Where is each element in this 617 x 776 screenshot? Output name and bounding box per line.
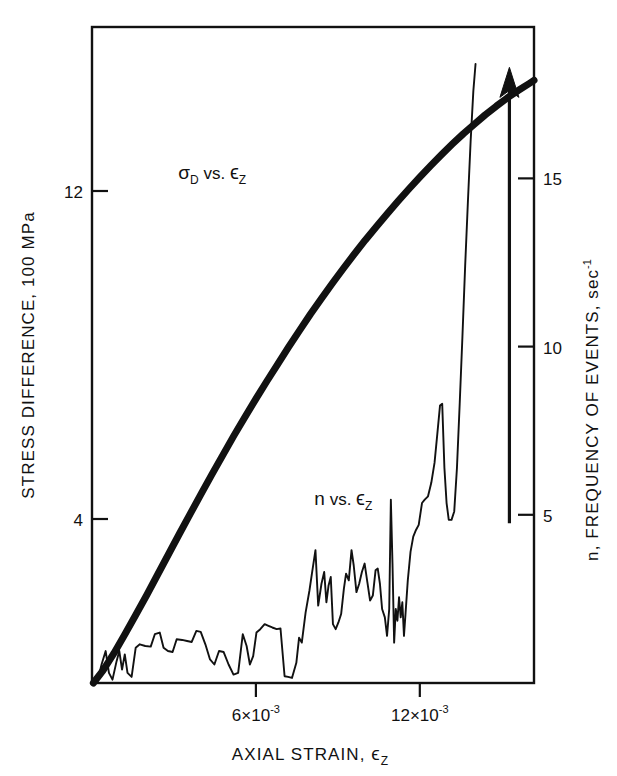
x-axis-title: AXIAL STRAIN, ϵZ xyxy=(232,743,388,768)
x-axis-title-subscript: Z xyxy=(381,754,388,768)
left-tick-label: 12 xyxy=(64,183,83,202)
stress-series-label-subscript: D xyxy=(190,173,199,187)
y-axis-right-title: n, FREQUENCY OF EVENTS, sec-1 xyxy=(581,259,602,561)
x-axis-title-epsilon: ϵ xyxy=(371,743,381,764)
x-tick-label-main: 6×10 xyxy=(232,706,270,725)
stress-series-label-vs: vs. xyxy=(199,164,230,183)
left-axis-ticks: 124 xyxy=(64,183,108,530)
x-tick-label: 6×10-3 xyxy=(232,703,280,725)
frequency-series-label-main: n xyxy=(314,488,325,509)
y-axis-left-title: STRESS DIFFERENCE, 100 MPa xyxy=(19,211,38,498)
x-tick-label-superscript: -3 xyxy=(270,703,280,715)
right-tick-label: 5 xyxy=(543,507,552,526)
frequency-series-label-epsilon: ϵ xyxy=(356,487,365,509)
x-tick-label-main: 12×10 xyxy=(391,706,439,725)
stress-series-label: σD vs. ϵZ xyxy=(178,161,246,187)
frequency-series-label: n vs. ϵZ xyxy=(314,487,372,513)
data-series-layer xyxy=(93,64,534,683)
y-axis-right-title-superscript: -1 xyxy=(581,259,593,269)
frequency-series-label-vs: vs. xyxy=(325,490,356,509)
y-axis-left-title-group: STRESS DIFFERENCE, 100 MPa xyxy=(19,211,38,498)
x-tick-label-superscript: -3 xyxy=(439,703,449,715)
inline-annotations-layer: σD vs. ϵZn vs. ϵZ xyxy=(178,161,372,513)
stress-series-label-epsilon-subscript: Z xyxy=(239,173,246,187)
left-tick-label: 4 xyxy=(74,511,83,530)
failure-arrow-group xyxy=(500,67,519,523)
x-axis-ticks: 6×10-312×10-3 xyxy=(232,683,449,725)
x-axis-title-main: AXIAL STRAIN, xyxy=(232,745,371,764)
series-line-1 xyxy=(93,80,534,683)
frequency-series-label-epsilon-subscript: Z xyxy=(365,499,372,513)
right-tick-label: 15 xyxy=(543,170,562,189)
x-tick-label: 12×10-3 xyxy=(391,703,449,725)
y-axis-right-title-main: n, FREQUENCY OF EVENTS, sec xyxy=(583,269,602,561)
y-axis-right-title-group: n, FREQUENCY OF EVENTS, sec-1 xyxy=(581,259,602,561)
right-tick-label: 10 xyxy=(543,339,562,358)
x-axis-title-group: AXIAL STRAIN, ϵZ xyxy=(232,743,388,768)
figure-container: 124 15105 6×10-312×10-3 STRESS DIFFERENC… xyxy=(0,0,617,776)
stress-strain-acoustic-emission-chart: 124 15105 6×10-312×10-3 STRESS DIFFERENC… xyxy=(0,0,617,776)
right-axis-ticks: 15105 xyxy=(518,170,562,525)
stress-series-label-main: σ xyxy=(178,162,190,183)
stress-series-label-epsilon: ϵ xyxy=(230,161,239,183)
